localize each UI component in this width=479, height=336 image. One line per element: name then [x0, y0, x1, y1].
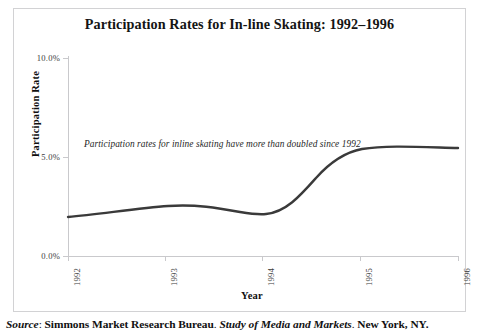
chart-title: Participation Rates for In-line Skating:…: [13, 16, 466, 33]
x-axis-title: Year: [0, 290, 479, 301]
x-axis-line: [67, 256, 459, 257]
chart-page: Participation Rates for In-line Skating:…: [0, 0, 479, 336]
source-organization: Simmons Market Research Bureau: [45, 318, 214, 330]
y-tick-label-10: 10.0%: [18, 53, 60, 63]
y-tick-label-0: 0.0%: [18, 251, 60, 261]
x-tick-mark-1993: [165, 256, 166, 261]
source-city: New York, NY.: [357, 318, 428, 330]
y-axis-title: Participation Rate: [30, 71, 41, 157]
source-caption: Source: Simmons Market Research Bureau. …: [6, 318, 476, 330]
chart-annotation: Participation rates for inline skating h…: [84, 139, 361, 149]
chart-frame: [13, 8, 466, 312]
x-tick-label-1993: 1993: [169, 268, 179, 286]
source-label: Source: [6, 318, 39, 330]
x-tick-label-1994: 1994: [266, 268, 276, 286]
y-axis-line: [68, 56, 69, 258]
y-tick-mark-5: [63, 157, 68, 158]
x-tick-mark-1996: [458, 256, 459, 261]
x-tick-mark-1995: [360, 256, 361, 261]
x-tick-label-1995: 1995: [364, 268, 374, 286]
x-tick-label-1996: 1996: [462, 268, 472, 286]
y-tick-mark-10: [63, 58, 68, 59]
x-tick-label-1992: 1992: [72, 268, 82, 286]
x-tick-mark-1992: [68, 256, 69, 261]
source-publication: Study of Media and Markets: [219, 318, 351, 330]
x-tick-mark-1994: [262, 256, 263, 261]
